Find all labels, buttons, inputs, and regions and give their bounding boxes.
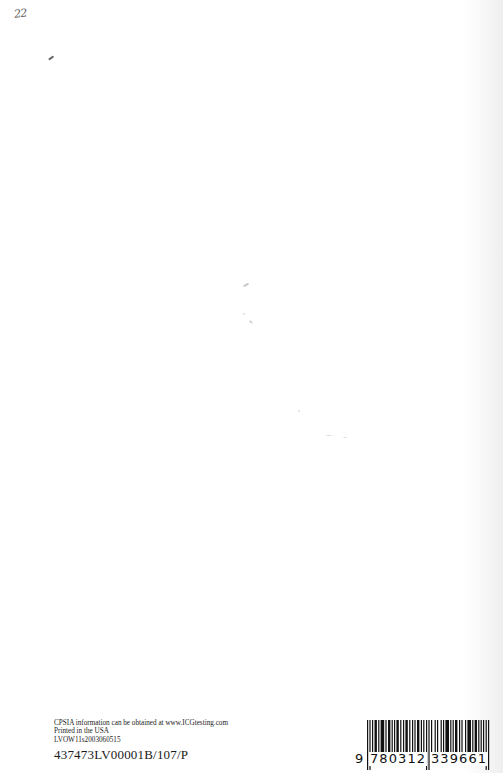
barcode-digits-right: 339661	[430, 752, 488, 766]
lot-code: 437473LV00001B/107/P	[54, 747, 188, 763]
printer-imprint: CPSIA information can be obtained at www…	[54, 719, 228, 744]
pencil-mark	[243, 283, 249, 287]
paper-speck	[343, 437, 347, 438]
pencil-mark	[249, 320, 253, 324]
cpsia-information-line: CPSIA information can be obtained at www…	[54, 719, 228, 727]
printed-in-line: Printed in the USA	[54, 727, 228, 735]
print-code-line: LVOW11s2003060515	[54, 736, 228, 744]
paper-speck	[243, 313, 245, 315]
handwritten-page-number: 22	[13, 6, 27, 20]
pencil-mark	[48, 55, 54, 60]
barcode-digit-first: 9	[355, 752, 364, 766]
barcode-digits-left: 780312	[369, 752, 427, 766]
paper-speck	[326, 435, 332, 436]
paper-speck	[298, 410, 300, 412]
